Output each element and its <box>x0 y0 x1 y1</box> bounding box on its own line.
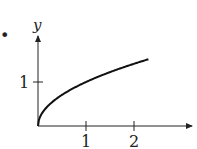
y-axis-label: y <box>32 16 42 34</box>
sqrt-curve <box>38 59 148 126</box>
sqrt-graph: y 1 1 2 <box>0 0 197 149</box>
x-tick-label-1: 1 <box>81 132 91 149</box>
y-tick-label-1: 1 <box>19 73 29 92</box>
x-tick-label-2: 2 <box>129 132 139 149</box>
